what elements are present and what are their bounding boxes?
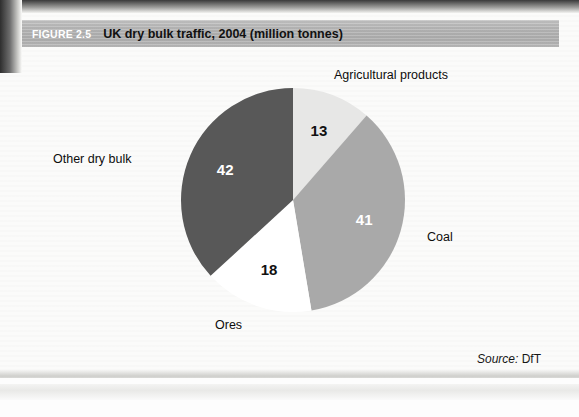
page-margin-band [0,384,579,400]
pie-chart: 13411842 [177,84,409,316]
source-value: DfT [522,352,541,366]
figure-number-label: FIGURE 2.5 [32,28,91,40]
pie-label-agricultural: Agricultural products [334,68,448,82]
pie-value-ores: 18 [261,261,278,278]
chart-area: 13411842 Agricultural products Coal Ores… [22,52,559,352]
figure-banner: FIGURE 2.5 UK dry bulk traffic, 2004 (mi… [22,20,559,47]
scan-edge-left [0,0,22,73]
figure-page: FIGURE 2.5 UK dry bulk traffic, 2004 (mi… [0,0,579,417]
figure-title: UK dry bulk traffic, 2004 (million tonne… [103,27,343,41]
pie-value-other-dry-bulk: 42 [217,161,234,178]
source-line: Source: DfT [22,352,559,366]
source-label: Source: [477,352,518,366]
pie-label-other-dry-bulk: Other dry bulk [53,152,132,166]
pie-label-coal: Coal [427,230,453,244]
pie-label-ores: Ores [215,318,242,332]
scan-edge-top [0,0,579,13]
pie-value-agricultural: 13 [311,122,328,139]
pie-value-coal: 41 [356,211,373,228]
pie-chart-svg: 13411842 [177,84,409,316]
